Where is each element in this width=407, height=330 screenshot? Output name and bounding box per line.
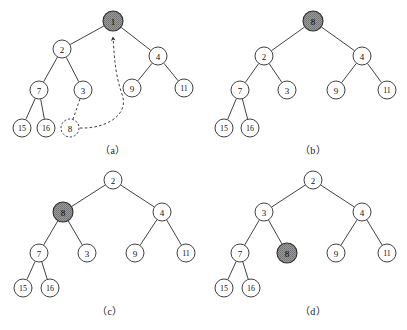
node-value: 8 bbox=[68, 124, 73, 134]
tree-node: 1 bbox=[103, 11, 123, 31]
node-value: 7 bbox=[37, 249, 42, 259]
node-value: 15 bbox=[220, 284, 228, 293]
node-value: 8 bbox=[285, 249, 290, 259]
figure-binary-heap-sift-up: 1247391115168824739111516284739111516234… bbox=[0, 0, 407, 330]
panel-caption-c: （c） bbox=[97, 306, 123, 317]
node-value: 4 bbox=[156, 52, 161, 62]
tree-node: 16 bbox=[41, 279, 59, 297]
node-value: 4 bbox=[160, 208, 165, 218]
node-value: 9 bbox=[334, 86, 339, 96]
node-value: 2 bbox=[111, 176, 116, 186]
tree-node: 11 bbox=[378, 244, 396, 262]
tree-node: 2 bbox=[255, 47, 273, 65]
node-value: 16 bbox=[42, 124, 50, 133]
panel-caption-b: （b） bbox=[300, 145, 327, 156]
tree-node: 4 bbox=[353, 47, 371, 65]
node-value: 16 bbox=[246, 124, 254, 133]
node-value: 11 bbox=[383, 86, 391, 95]
node-value: 16 bbox=[247, 284, 255, 293]
node-value: 8 bbox=[61, 208, 66, 218]
tree-node: 15 bbox=[215, 279, 233, 297]
tree-node: 9 bbox=[126, 244, 144, 262]
tree-node: 16 bbox=[37, 119, 55, 137]
tree-node: 8 bbox=[61, 119, 79, 137]
tree-node: 11 bbox=[378, 81, 396, 99]
node-value: 9 bbox=[334, 249, 339, 259]
node-value: 3 bbox=[285, 86, 290, 96]
tree-node: 7 bbox=[231, 244, 249, 262]
node-value: 11 bbox=[182, 249, 190, 258]
node-value: 7 bbox=[238, 86, 243, 96]
tree-node: 7 bbox=[231, 81, 249, 99]
node-value: 16 bbox=[46, 284, 54, 293]
tree-node: 8 bbox=[303, 11, 323, 31]
node-value: 11 bbox=[383, 249, 391, 258]
tree-node: 4 bbox=[353, 203, 371, 221]
tree-node: 15 bbox=[13, 119, 31, 137]
node-value: 9 bbox=[133, 249, 138, 259]
tree-node: 7 bbox=[30, 81, 48, 99]
tree-node: 3 bbox=[78, 244, 96, 262]
tree-node: 7 bbox=[30, 244, 48, 262]
node-value: 2 bbox=[311, 176, 316, 186]
tree-node: 15 bbox=[215, 119, 233, 137]
tree-node: 3 bbox=[74, 81, 92, 99]
tree-node: 2 bbox=[104, 171, 122, 189]
tree-node: 2 bbox=[53, 40, 71, 58]
tree-node: 15 bbox=[14, 279, 32, 297]
tree-node: 9 bbox=[123, 79, 141, 97]
node-value: 7 bbox=[37, 86, 42, 96]
node-value: 9 bbox=[130, 84, 135, 94]
node-value: 4 bbox=[360, 208, 365, 218]
tree-node: 3 bbox=[278, 81, 296, 99]
node-value: 15 bbox=[220, 124, 228, 133]
node-value: 3 bbox=[262, 208, 267, 218]
node-value: 8 bbox=[311, 17, 316, 27]
node-value: 1 bbox=[111, 17, 116, 27]
tree-node: 9 bbox=[327, 244, 345, 262]
node-value: 7 bbox=[238, 249, 243, 259]
tree-node: 9 bbox=[327, 81, 345, 99]
tree-node: 4 bbox=[149, 47, 167, 65]
node-value: 2 bbox=[262, 52, 267, 62]
panel-caption-d: （d） bbox=[300, 306, 327, 317]
tree-node: 8 bbox=[277, 243, 297, 263]
tree-node: 11 bbox=[175, 79, 193, 97]
node-value: 2 bbox=[60, 45, 65, 55]
tree-node: 3 bbox=[255, 203, 273, 221]
tree-node: 16 bbox=[241, 119, 259, 137]
panel-caption-a: （a） bbox=[100, 145, 126, 156]
node-value: 3 bbox=[85, 249, 90, 259]
tree-node: 8 bbox=[53, 202, 73, 222]
node-value: 11 bbox=[180, 84, 188, 93]
node-value: 15 bbox=[19, 284, 27, 293]
node-value: 4 bbox=[360, 52, 365, 62]
tree-node: 16 bbox=[242, 279, 260, 297]
tree-node: 4 bbox=[153, 203, 171, 221]
tree-node: 2 bbox=[304, 171, 322, 189]
tree-node: 11 bbox=[177, 244, 195, 262]
node-value: 15 bbox=[18, 124, 26, 133]
node-value: 3 bbox=[81, 86, 86, 96]
